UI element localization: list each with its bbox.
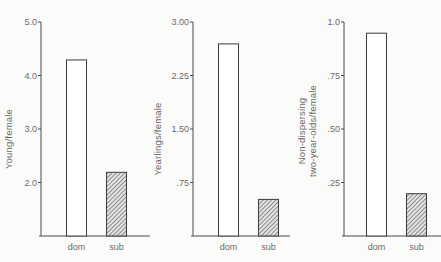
y-tick-label: 3.00 [171,17,189,27]
x-category-label: dom [220,242,238,252]
x-category-label: sub [409,242,424,252]
bar-dom [219,44,239,236]
y-axis-label: Yearlings/female [152,102,163,175]
y-tick-label: 4.0 [24,71,37,81]
y-axis-label: Non-dispersing [296,98,307,165]
x-category-label: sub [109,242,124,252]
y-tick-label: 3.0 [24,124,37,134]
y-tick-label: .75 [327,71,340,81]
chart-panel-1: 2.03.04.05.0domsubYoung/female [3,17,150,252]
y-tick-label: 1.0 [327,17,340,27]
x-category-label: sub [261,242,276,252]
y-tick-label: 2.0 [24,178,37,188]
bar-sub [407,194,427,236]
y-tick-label: .50 [327,124,340,134]
bar-sub [259,199,279,236]
chart-panel-3: .25.50.751.0domsubNon-dispersingtwo-year… [296,17,441,252]
chart-panel-2: .751.502.253.00domsubYearlings/female [152,17,290,252]
bar-dom [67,60,87,236]
bar-chart-figure: 2.03.04.05.0domsubYoung/female.751.502.2… [0,0,441,262]
x-category-label: dom [68,242,86,252]
y-axis-label: Young/female [3,109,14,169]
y-tick-label: 2.25 [171,71,189,81]
y-tick-label: .75 [176,178,189,188]
y-tick-label: 1.50 [171,124,189,134]
bar-sub [107,172,127,236]
x-category-label: dom [368,242,386,252]
bar-dom [367,33,387,236]
y-tick-label: .25 [327,178,340,188]
y-tick-label: 5.0 [24,17,37,27]
y-axis-label: two-year-olds/female [307,85,318,177]
